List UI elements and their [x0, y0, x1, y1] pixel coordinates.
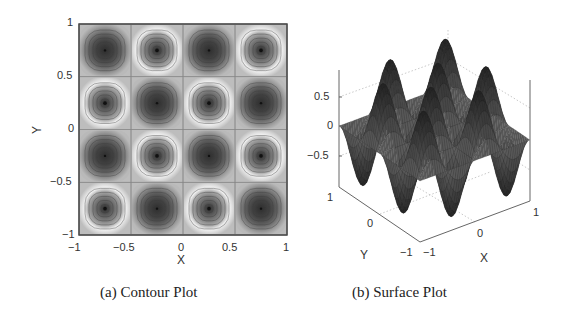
caption-surface: (b) Surface Plot — [352, 284, 447, 301]
z-tick-0.5: 0.5 — [314, 91, 329, 102]
surface-y-tick-neg1: −1 — [400, 247, 413, 258]
z-tick-0: 0 — [327, 120, 333, 131]
surface-x-tick-0: 0 — [477, 228, 483, 239]
surface-y-tick-0: 0 — [367, 218, 373, 229]
surface-x-axis-label: X — [480, 252, 488, 264]
surface-canvas — [0, 0, 574, 327]
surface-mesh — [339, 39, 530, 217]
surface-x-tick-1: 1 — [533, 207, 539, 218]
z-tick-neg0.5: −0.5 — [307, 150, 329, 161]
surface-x-tick-neg1: −1 — [423, 247, 436, 258]
surface-y-tick-1: 1 — [327, 192, 333, 203]
surface-y-axis-label: Y — [360, 249, 368, 261]
